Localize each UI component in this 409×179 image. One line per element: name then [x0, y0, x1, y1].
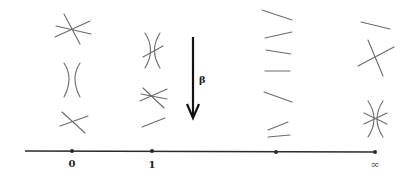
- col2-line-2: [265, 32, 292, 38]
- col0-tangent-conics: [64, 63, 80, 97]
- col1-transversal: [143, 46, 163, 57]
- col0-conic-right: [75, 63, 80, 97]
- colinf-cross-line-b: [358, 47, 394, 66]
- axis-label-0: 0: [69, 158, 76, 169]
- col2-lines: [262, 10, 292, 137]
- col0-star-line-c: [55, 21, 90, 37]
- col2-line-3: [266, 50, 291, 54]
- col1-single-line: [142, 118, 165, 127]
- col0-cross-line-a: [62, 112, 85, 133]
- colinf-conic-left: [368, 101, 374, 137]
- col0-conic-left: [64, 63, 69, 97]
- col1-conic-left: [145, 33, 151, 68]
- axis-label-1: 1: [149, 159, 156, 170]
- colinf-tangent-lines: [364, 101, 387, 137]
- colinf-single-line: [361, 22, 390, 29]
- col0-star-config: [55, 14, 91, 44]
- col1-line-d: [142, 118, 165, 127]
- beta-label: β: [199, 74, 206, 85]
- axis-line: [25, 151, 375, 152]
- axis-point-2: [274, 150, 278, 154]
- beta-arrow: β: [187, 37, 206, 118]
- col2-line-1: [262, 10, 292, 20]
- colinf-conic-right: [377, 101, 383, 137]
- col2-line-7: [268, 135, 290, 137]
- col0-cross-line-b: [60, 116, 88, 126]
- diagram-canvas: β 0 1 ∞: [0, 0, 409, 179]
- col2-line-6: [268, 122, 288, 130]
- axis-point-inf: [373, 150, 377, 154]
- col2-line-5: [264, 92, 292, 102]
- colinf-cross-line-a: [368, 40, 383, 76]
- col1-three-lines: [140, 88, 167, 108]
- axis-point-1: [150, 149, 154, 153]
- axis-label-inf: ∞: [370, 158, 379, 171]
- colinf-line-a: [361, 22, 390, 29]
- parameter-axis: 0 1 ∞: [25, 149, 380, 171]
- col0-cross-config: [60, 112, 88, 133]
- col1-tangent-transversal: [143, 33, 163, 68]
- axis-point-0: [70, 149, 74, 153]
- colinf-cross: [358, 40, 394, 76]
